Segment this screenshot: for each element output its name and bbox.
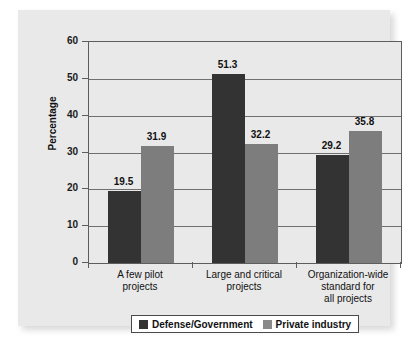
bar-value-label: 29.2 [309,140,354,151]
bar-value-label: 19.5 [101,176,146,187]
legend-swatch-icon-defense-government [139,320,148,329]
chart-panel: Percentage 6050403020100 19.531.951.332.… [18,10,390,326]
legend-item-private-industry: Private industry [263,319,352,330]
bar-value-label: 35.8 [342,116,387,127]
x-axis-tick-mark [400,262,401,268]
category-label-line: Large and critical [184,269,304,281]
category-label-line: projects [80,281,200,293]
bar-value-label: 51.3 [205,59,250,70]
x-axis-category-label: Large and criticalprojects [184,269,304,293]
y-axis-tick-label: 0 [54,257,78,267]
y-axis-tick-label: 20 [54,183,78,193]
legend-label-defense-government: Defense/Government [152,319,253,330]
category-label-line: all projects [288,293,408,305]
bar [108,191,141,263]
x-axis-tick-mark [296,262,297,268]
category-label-line: projects [184,281,304,293]
plot-area [88,41,402,264]
bar [245,144,278,263]
legend-label-private-industry: Private industry [276,319,352,330]
x-axis-tick-mark [88,262,89,268]
x-axis-category-label: Organization-widestandard forall project… [288,269,408,305]
bar-value-label: 31.9 [134,131,179,142]
bar [316,155,349,263]
bar-value-label: 32.2 [238,129,283,140]
category-label-line: standard for [288,281,408,293]
legend-swatch-icon-private-industry [263,320,272,329]
chart-figure: Percentage 6050403020100 19.531.951.332.… [0,0,409,348]
x-axis-category-label: A few pilotprojects [80,269,200,293]
x-axis-tick-mark [192,262,193,268]
bar [141,146,174,263]
category-label-line: Organization-wide [288,269,408,281]
bar [212,74,245,263]
chart-legend: Defense/Government Private industry [131,315,359,333]
y-axis-tick-label: 40 [54,110,78,120]
gridline [89,79,401,80]
category-label-line: A few pilot [80,269,200,281]
y-axis-tick-label: 10 [54,220,78,230]
y-axis-tick-label: 60 [54,36,78,46]
y-axis-tick-label: 30 [54,147,78,157]
legend-item-defense-government: Defense/Government [139,319,253,330]
y-axis-tick-label: 50 [54,73,78,83]
